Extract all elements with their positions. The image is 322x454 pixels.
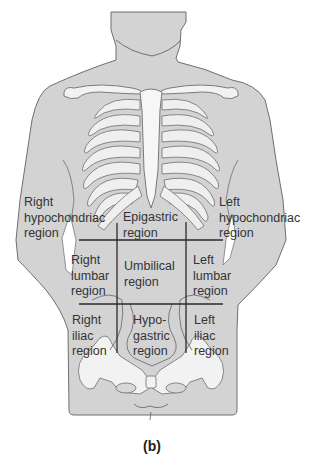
label-left-lumbar: Left lumbar region bbox=[193, 253, 231, 300]
figure-caption: (b) bbox=[143, 438, 161, 454]
abdominal-regions-figure: Right hypochondriac region Epigastric re… bbox=[0, 0, 322, 454]
label-left-iliac: Left iliac region bbox=[194, 313, 229, 360]
label-right-hypochondriac: Right hypochondriac region bbox=[24, 195, 105, 242]
label-epigastric: Epigastric region bbox=[123, 210, 178, 241]
label-right-lumbar: Right lumbar region bbox=[71, 253, 109, 300]
label-hypogastric: Hypo- gastric region bbox=[133, 313, 170, 360]
label-left-hypochondriac: Left hypochondriac region bbox=[219, 195, 300, 242]
label-right-iliac: Right iliac region bbox=[72, 313, 107, 360]
label-umbilical: Umbilical region bbox=[124, 259, 175, 290]
